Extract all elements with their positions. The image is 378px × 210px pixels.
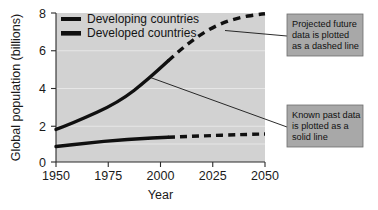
known-note-box: Known past data is plotted as a solid li…: [287, 105, 363, 147]
legend-label-developed: Developed countries: [87, 26, 196, 40]
y-tick-label-4: 4: [39, 82, 46, 96]
y-tick-label-8: 8: [39, 7, 46, 21]
projected-note-line3: as a dashed line: [292, 41, 359, 51]
x-tick-label-1950: 1950: [42, 169, 70, 183]
known-note-line2: is plotted as a: [292, 121, 350, 131]
x-axis-title: Year: [148, 188, 173, 202]
chart-svg: 8 6 4 2 0 1950 1975 2000 2025 2050 Year …: [0, 0, 378, 210]
y-tick-label-0: 0: [39, 156, 46, 170]
known-note-line3: solid line: [292, 132, 328, 142]
projected-note-line2: data is plotted: [292, 30, 349, 40]
legend-swatch-developing: [61, 17, 81, 21]
legend-label-developing: Developing countries: [87, 12, 199, 26]
y-axis-title: Global population (billions): [9, 14, 23, 161]
x-tick-label-1975: 1975: [94, 169, 122, 183]
y-tick-label-2: 2: [39, 120, 46, 134]
population-projection-chart: 8 6 4 2 0 1950 1975 2000 2025 2050 Year …: [0, 0, 378, 210]
y-tick-label-6: 6: [39, 44, 46, 58]
x-tick-label-2050: 2050: [251, 169, 279, 183]
known-note-line1: Known past data: [292, 110, 361, 120]
projected-note-box: Projected future data is plotted as a da…: [287, 14, 363, 56]
x-tick-label-2000: 2000: [147, 169, 175, 183]
x-tick-label-2025: 2025: [199, 169, 227, 183]
legend-swatch-developed: [61, 31, 81, 36]
projected-note-line1: Projected future: [292, 19, 357, 29]
